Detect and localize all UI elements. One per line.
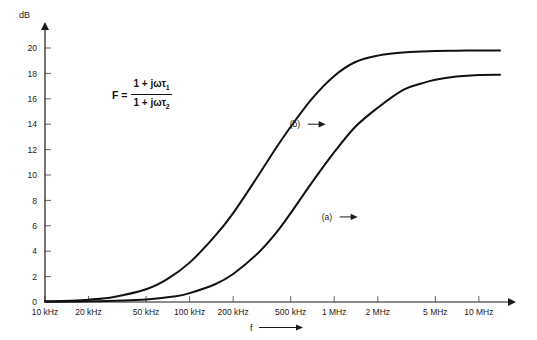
x-tick-label: 2 MHz — [365, 307, 390, 317]
y-tick-label: 18 — [28, 69, 38, 79]
formula-fraction-bar — [131, 94, 171, 95]
y-tick-label: 16 — [28, 94, 38, 104]
y-tick-label: 0 — [32, 297, 37, 307]
transfer-function-formula: F = 1 + jωτ1 1 + jωτ2 — [112, 78, 172, 112]
formula-lhs: F = — [112, 89, 127, 101]
x-tick-label: 50 kHz — [133, 307, 159, 317]
y-tick-label: 4 — [32, 246, 37, 256]
x-tick-label: 10 MHz — [464, 307, 493, 317]
curve-annotation-label: (b) — [290, 119, 301, 129]
y-tick-label: 12 — [28, 145, 38, 155]
x-tick-label: 20 kHz — [75, 307, 101, 317]
formula-denominator: 1 + jωτ2 — [131, 97, 171, 112]
bode-magnitude-chart: 02468101214161820 10 kHz20 kHz50 kHz100 … — [0, 0, 537, 340]
y-tick-label: 20 — [28, 43, 38, 53]
x-tick-label: 1 MHz — [322, 307, 347, 317]
x-tick-label: 10 kHz — [32, 307, 58, 317]
y-tick-label: 6 — [32, 221, 37, 231]
x-tick-label: 500 kHz — [275, 307, 306, 317]
y-tick-label: 8 — [32, 196, 37, 206]
y-axis-title: dB — [19, 10, 30, 20]
curve-annotation-label: (a) — [322, 212, 333, 222]
y-tick-label: 14 — [28, 119, 38, 129]
y-tick-label: 10 — [28, 170, 38, 180]
x-tick-label: 5 MHz — [423, 307, 448, 317]
x-tick-label: 100 kHz — [174, 307, 205, 317]
x-tick-label: 200 kHz — [218, 307, 249, 317]
formula-fraction: 1 + jωτ1 1 + jωτ2 — [131, 78, 171, 112]
y-tick-label: 2 — [32, 272, 37, 282]
formula-numerator: 1 + jωτ1 — [131, 78, 171, 93]
